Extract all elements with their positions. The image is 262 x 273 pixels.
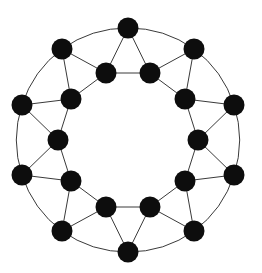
graph-node-O6 (52, 221, 73, 242)
graph-node-O8 (12, 95, 33, 116)
graph-edge-O2-O3 (234, 105, 240, 175)
graph-node-O3 (224, 165, 245, 186)
graph-node-I8 (48, 130, 69, 151)
graph-node-O9 (52, 39, 73, 60)
graph-node-I9 (61, 89, 82, 110)
node-layer (12, 18, 245, 263)
graph-node-I0 (96, 63, 117, 84)
graph-diagram (0, 0, 262, 273)
graph-node-O5 (118, 242, 139, 263)
graph-node-I5 (140, 197, 161, 218)
graph-node-I1 (140, 63, 161, 84)
graph-node-O7 (12, 165, 33, 186)
graph-edge-O7-O8 (16, 105, 22, 175)
graph-node-I2 (175, 89, 196, 110)
graph-node-I3 (188, 130, 209, 151)
graph-node-O0 (118, 18, 139, 39)
graph-node-O2 (224, 95, 245, 116)
graph-node-O4 (184, 221, 205, 242)
graph-node-I7 (61, 171, 82, 192)
graph-node-I4 (175, 171, 196, 192)
graph-node-O1 (184, 39, 205, 60)
graph-node-I6 (96, 197, 117, 218)
graph-canvas (0, 0, 262, 273)
